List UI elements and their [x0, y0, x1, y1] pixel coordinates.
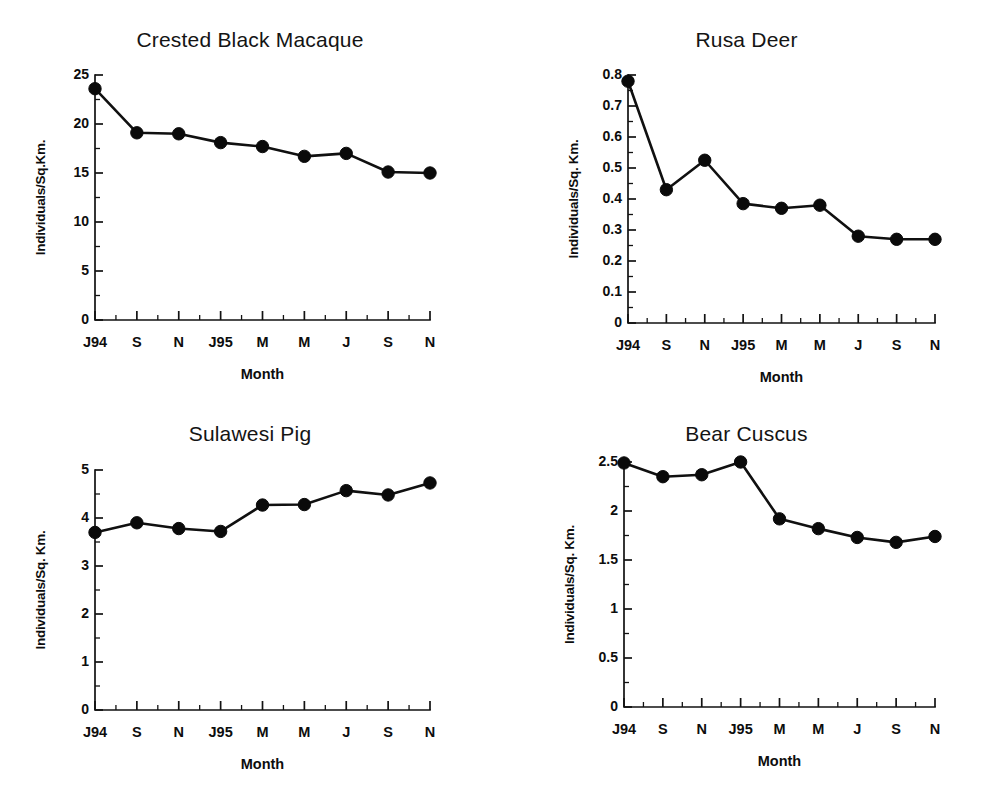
plot-svg-bear-cuscus: [624, 462, 935, 707]
y-tick-label: 1.5: [570, 551, 618, 567]
data-point-marker: [775, 202, 787, 214]
x-tick-label: N: [400, 334, 460, 350]
data-point-marker: [340, 484, 352, 496]
x-axis-label-sulawesi-pig: Month: [95, 756, 430, 772]
data-point-marker: [298, 150, 310, 162]
y-tick-label: 5: [41, 461, 89, 477]
chart-title-bear-cuscus: Bear Cuscus: [500, 422, 993, 446]
data-point-marker: [382, 489, 394, 501]
chart-panel-sulawesi-pig: Sulawesi PigIndividuals/Sq. Km.Month0123…: [0, 400, 500, 799]
y-tick-label: 2.5: [570, 453, 618, 469]
chart-title-crested-black-macaque: Crested Black Macaque: [0, 28, 500, 52]
series-line-crested-black-macaque: [95, 89, 430, 173]
y-tick-label: 1: [41, 653, 89, 669]
data-point-marker: [699, 154, 711, 166]
y-tick-label: 0: [41, 311, 89, 327]
axis-lines-crested-black-macaque: [95, 75, 430, 320]
plot-svg-crested-black-macaque: [95, 75, 430, 320]
chart-panel-bear-cuscus: Bear CuscusIndividuals/Sq. Km.Month00.51…: [500, 400, 993, 799]
plot-area-rusa-deer: [628, 75, 935, 323]
y-tick-label: 10: [41, 213, 89, 229]
y-axis-label-crested-black-macaque: Individuals/Sq.Km.: [33, 75, 48, 320]
x-axis-label-crested-black-macaque: Month: [95, 366, 430, 382]
y-tick-label: 5: [41, 262, 89, 278]
y-tick-label: 4: [41, 509, 89, 525]
y-tick-label: 0.3: [574, 221, 622, 237]
data-point-marker: [852, 230, 864, 242]
plot-svg-rusa-deer: [628, 75, 935, 323]
y-tick-label: 0.6: [574, 128, 622, 144]
data-point-marker: [812, 522, 824, 534]
y-tick-label: 20: [41, 115, 89, 131]
y-tick-label: 2: [41, 605, 89, 621]
data-point-marker: [851, 531, 863, 543]
chart-panel-rusa-deer: Rusa DeerIndividuals/Sq. Km.Month00.10.2…: [500, 0, 993, 400]
y-tick-label: 2: [570, 502, 618, 518]
y-tick-label: 0.7: [574, 97, 622, 113]
data-point-marker: [814, 199, 826, 211]
x-tick-label: N: [905, 337, 965, 353]
series-line-rusa-deer: [628, 81, 935, 239]
series-line-bear-cuscus: [624, 462, 935, 542]
x-tick-label: N: [400, 724, 460, 740]
data-point-marker: [890, 233, 902, 245]
data-point-marker: [131, 127, 143, 139]
y-tick-label: 15: [41, 164, 89, 180]
data-point-marker: [737, 197, 749, 209]
data-point-marker: [256, 140, 268, 152]
axis-lines-bear-cuscus: [624, 462, 935, 707]
y-axis-label-bear-cuscus: Individuals/Sq. Km.: [562, 462, 577, 707]
y-tick-label: 25: [41, 66, 89, 82]
y-tick-label: 3: [41, 557, 89, 573]
chart-title-rusa-deer: Rusa Deer: [500, 28, 993, 52]
data-point-marker: [424, 477, 436, 489]
data-point-marker: [424, 167, 436, 179]
plot-area-crested-black-macaque: [95, 75, 430, 320]
y-tick-label: 0.1: [574, 283, 622, 299]
data-point-marker: [214, 525, 226, 537]
x-axis-label-bear-cuscus: Month: [624, 753, 935, 769]
data-point-marker: [382, 166, 394, 178]
axis-lines-rusa-deer: [628, 75, 935, 323]
y-tick-label: 0.5: [574, 159, 622, 175]
data-point-marker: [696, 469, 708, 481]
data-point-marker: [890, 536, 902, 548]
data-point-marker: [929, 530, 941, 542]
y-axis-label-sulawesi-pig: Individuals/Sq. Km.: [33, 470, 48, 710]
plot-svg-sulawesi-pig: [95, 470, 430, 710]
data-point-marker: [622, 75, 634, 87]
data-point-marker: [773, 513, 785, 525]
y-tick-label: 0: [570, 698, 618, 714]
y-tick-label: 0: [41, 701, 89, 717]
data-point-marker: [618, 457, 630, 469]
data-point-marker: [657, 471, 669, 483]
data-point-marker: [298, 498, 310, 510]
data-point-marker: [89, 83, 101, 95]
y-tick-label: 0.2: [574, 252, 622, 268]
y-tick-label: 1: [570, 600, 618, 616]
x-tick-label: N: [905, 721, 965, 737]
data-point-marker: [660, 184, 672, 196]
chart-panel-crested-black-macaque: Crested Black MacaqueIndividuals/Sq.Km.M…: [0, 0, 500, 400]
data-point-marker: [340, 147, 352, 159]
figure-root: Crested Black MacaqueIndividuals/Sq.Km.M…: [0, 0, 993, 799]
chart-title-sulawesi-pig: Sulawesi Pig: [0, 422, 500, 446]
data-point-marker: [214, 136, 226, 148]
y-tick-label: 0.5: [570, 649, 618, 665]
data-point-marker: [734, 456, 746, 468]
y-tick-label: 0.8: [574, 66, 622, 82]
data-point-marker: [89, 526, 101, 538]
data-point-marker: [929, 233, 941, 245]
data-point-marker: [173, 522, 185, 534]
data-point-marker: [256, 499, 268, 511]
plot-area-bear-cuscus: [624, 462, 935, 707]
y-tick-label: 0.4: [574, 190, 622, 206]
x-axis-label-rusa-deer: Month: [628, 369, 935, 385]
data-point-marker: [173, 128, 185, 140]
data-point-marker: [131, 517, 143, 529]
y-tick-label: 0: [574, 314, 622, 330]
plot-area-sulawesi-pig: [95, 470, 430, 710]
